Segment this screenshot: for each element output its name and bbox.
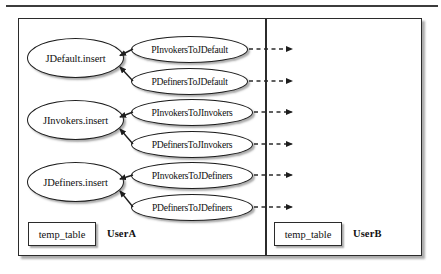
job-node-label: JInvokers.insert <box>43 115 108 126</box>
temp-table-box-userb[interactable]: temp_table <box>274 222 342 246</box>
procedure-node-pinvokerstojinvokers[interactable]: PInvokersToJInvokers <box>131 99 253 126</box>
job-node-label: JDefiners.insert <box>43 177 108 188</box>
job-node-label: JDefault.insert <box>45 53 105 64</box>
procedure-node-label: PDefinersToJDefault <box>151 76 227 87</box>
pane-label-usera: UserA <box>107 228 136 239</box>
procedure-node-label: PInvokersToJInvokers <box>151 107 232 118</box>
pane-label-text: UserA <box>107 228 136 239</box>
temp-table-label: temp_table <box>285 229 332 240</box>
job-node-jdefiners[interactable]: JDefiners.insert <box>27 162 124 202</box>
pane-label-userb: UserB <box>353 228 382 239</box>
procedure-node-label: PInvokersToJDefault <box>151 44 228 55</box>
user-pane-divider <box>265 18 267 256</box>
procedure-node-pinvokerstojdefiners[interactable]: PInvokersToJDefiners <box>131 162 253 189</box>
pane-label-text: UserB <box>353 228 382 239</box>
procedure-node-pdefinerstojdefiners[interactable]: PDefinersToJDefiners <box>131 194 253 221</box>
diagram-figure: JDefault.insert JInvokers.insert JDefine… <box>0 0 441 274</box>
temp-table-box-usera[interactable]: temp_table <box>28 222 96 246</box>
job-node-jinvokers[interactable]: JInvokers.insert <box>27 100 124 140</box>
procedure-node-pdefinerstojdefault[interactable]: PDefinersToJDefault <box>131 68 248 95</box>
job-node-jdefault[interactable]: JDefault.insert <box>27 38 124 78</box>
procedure-node-pdefinerstojinvokers[interactable]: PDefinersToJInvokers <box>131 131 253 158</box>
procedure-node-label: PDefinersToJInvokers <box>152 139 233 150</box>
procedure-node-pinvokerstojdefault[interactable]: PInvokersToJDefault <box>131 36 248 63</box>
temp-table-label: temp_table <box>39 229 86 240</box>
page-top-rule <box>6 5 438 7</box>
procedure-node-label: PInvokersToJDefiners <box>152 170 233 181</box>
procedure-node-label: PDefinersToJDefiners <box>152 202 232 213</box>
